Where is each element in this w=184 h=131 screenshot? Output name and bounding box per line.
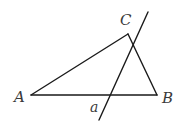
line-label-a: a [90, 99, 98, 115]
segment-bc [128, 34, 157, 95]
vertex-label-b: B [161, 89, 173, 107]
segment-ca [31, 34, 128, 95]
vertex-label-c: C [120, 11, 132, 29]
vertex-label-a: A [12, 88, 25, 106]
triangle-diagram: A B C a [0, 0, 184, 131]
